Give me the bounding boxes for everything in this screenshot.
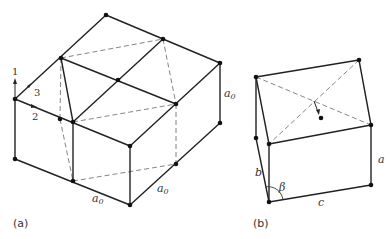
param-b-label: b (255, 166, 262, 179)
cell-edges (256, 60, 371, 202)
axis-2-label: 2 (32, 111, 38, 122)
param-a-label: a (378, 153, 385, 166)
panel-b-unit-cell: a b c β (b) (253, 58, 385, 230)
dim-label-vertical: a0 (224, 87, 236, 101)
diagram-canvas: 1 3 2 a0 a0 a0 (a) (0, 0, 391, 239)
lattice-nodes (13, 13, 223, 208)
param-c-label: c (318, 196, 324, 209)
panel-a-lattice: 1 3 2 a0 a0 a0 (a) (12, 13, 236, 230)
face-diagonals (256, 60, 371, 144)
centering-arrow-icon (316, 109, 320, 115)
coordinate-axes: 1 3 2 (12, 66, 40, 122)
visible-edges (15, 15, 220, 205)
param-beta-label: β (278, 181, 285, 194)
dim-label-front-right: a0 (157, 182, 169, 196)
axis-3-label: 3 (34, 87, 40, 98)
panel-a-label: (a) (13, 217, 28, 230)
axis-1-label: 1 (12, 66, 18, 77)
axis-1-arrow-icon (13, 78, 17, 84)
body-center-atom (319, 116, 324, 121)
cell-nodes (254, 58, 374, 205)
panel-b-label: (b) (253, 217, 269, 230)
hidden-edges (60, 39, 176, 181)
